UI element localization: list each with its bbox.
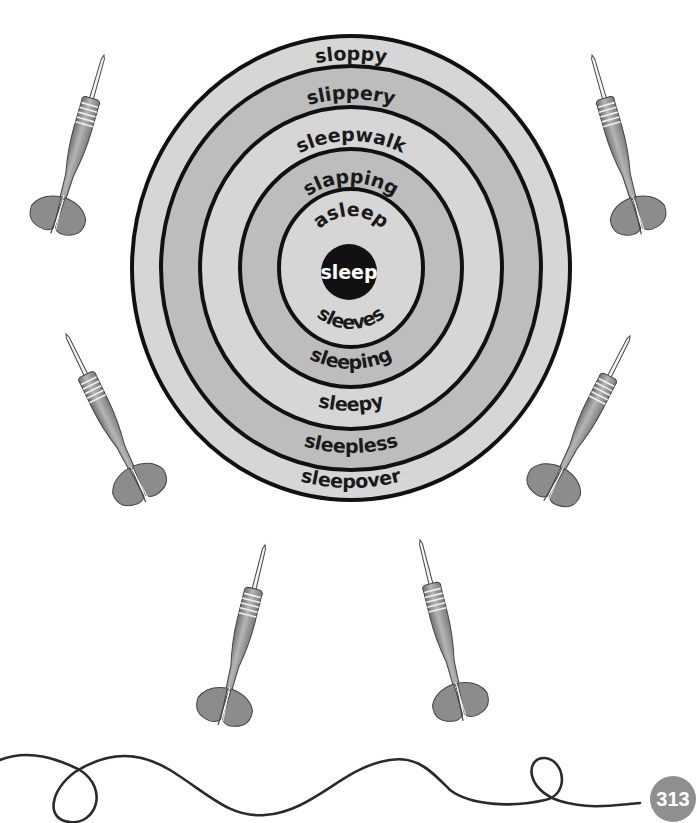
dartboard: sleep sloppy slippery sleepwalk slapping… [132, 36, 570, 500]
worksheet-page: sleep sloppy slippery sleepwalk slapping… [0, 0, 697, 823]
squiggle-line [0, 755, 640, 822]
dart-icon[interactable] [26, 47, 131, 241]
page-number-badge: 313 [650, 776, 696, 822]
dart-icon[interactable] [565, 47, 670, 241]
dart-icon[interactable] [393, 533, 493, 727]
ring-word: sloppy [313, 42, 389, 67]
bullseye-word: sleep [320, 261, 377, 283]
dart-icon[interactable] [193, 538, 293, 732]
page-number: 313 [656, 788, 689, 810]
